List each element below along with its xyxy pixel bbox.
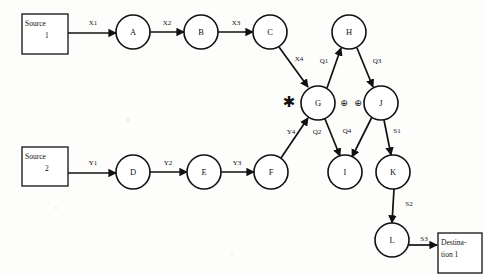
asterisk-operator: ✱: [283, 93, 296, 111]
edge-x2: X2: [150, 19, 184, 32]
diagram-canvas: X1X2X3X4Q1Q3Y1Y2Y3Y4Q2Q4S1S2S3 Source1So…: [0, 0, 485, 275]
edge-line-s1: [384, 120, 391, 155]
edge-line-x4: [279, 47, 308, 87]
node-i: I: [328, 155, 362, 189]
node-l: L: [375, 223, 409, 257]
edge-x1: X1: [68, 19, 116, 33]
edge-q2: Q2: [313, 119, 340, 156]
node-d: D: [116, 155, 150, 189]
source-1-box-line1: Source: [25, 19, 46, 28]
edge-label-y4: Y4: [287, 128, 296, 136]
node-label-k: K: [390, 167, 397, 177]
edge-label-y3: Y3: [233, 159, 242, 167]
edge-x3: X3: [218, 19, 253, 32]
node-k: K: [376, 155, 410, 189]
edge-line-q3: [357, 48, 373, 87]
edge-y3: Y3: [221, 159, 254, 172]
source-2-box: Source2: [22, 147, 68, 186]
destination-1-box-line1: Destina-: [441, 238, 467, 247]
node-label-b: B: [198, 27, 204, 37]
node-layer: ABCHGJDEFIKL: [116, 15, 410, 257]
node-f: F: [254, 155, 288, 189]
edge-line-q1: [327, 48, 341, 88]
node-label-f: F: [269, 167, 274, 177]
edge-label-s1: S1: [393, 127, 401, 135]
edge-s2: S2: [392, 189, 413, 223]
edge-label-q1: Q1: [320, 57, 329, 65]
edge-line-y4: [281, 118, 308, 158]
edge-y2: Y2: [150, 159, 187, 172]
circled-plus-operator-right: ⊕: [354, 98, 362, 108]
edge-s1: S1: [384, 120, 401, 155]
edge-line-q4: [352, 117, 372, 157]
edge-label-x2: X2: [163, 19, 172, 27]
node-label-i: I: [344, 167, 347, 177]
node-g: G: [301, 86, 335, 120]
node-c: C: [253, 15, 287, 49]
edge-label-q4: Q4: [343, 127, 352, 135]
node-label-d: D: [130, 167, 136, 177]
node-a: A: [116, 15, 150, 49]
edge-line-s2: [392, 189, 394, 223]
edge-label-s2: S2: [405, 200, 413, 208]
circled-plus-operator-left: ⊕: [340, 98, 348, 108]
node-e: E: [187, 155, 221, 189]
node-j: J: [364, 86, 398, 120]
edge-s3: S3: [409, 235, 437, 245]
node-label-e: E: [201, 167, 206, 177]
destination-1-box-line2: tion 1: [441, 250, 459, 259]
edge-layer: X1X2X3X4Q1Q3Y1Y2Y3Y4Q2Q4S1S2S3: [68, 19, 437, 245]
edge-label-x1: X1: [89, 19, 98, 27]
edge-q3: Q3: [357, 48, 382, 87]
edge-label-y2: Y2: [164, 159, 173, 167]
source-1-box-line2: 1: [45, 31, 49, 40]
node-b: B: [184, 15, 218, 49]
edge-x4: X4: [279, 47, 308, 87]
node-h: H: [332, 15, 366, 49]
destination-1-box: Destina-tion 1: [438, 233, 482, 273]
source-2-box-line1: Source: [25, 152, 46, 161]
source-1-box: Source1: [22, 14, 68, 54]
edge-q4: Q4: [343, 117, 372, 157]
node-label-a: A: [130, 27, 137, 37]
edge-y1: Y1: [68, 159, 116, 173]
node-label-g: G: [315, 98, 321, 108]
edge-label-y1: Y1: [89, 159, 98, 167]
box-layer: Source1Source2Destina-tion 1: [22, 14, 482, 273]
edge-label-s3: S3: [420, 235, 428, 243]
edge-q1: Q1: [320, 48, 341, 88]
edge-label-x4: X4: [295, 55, 304, 63]
node-label-l: L: [389, 235, 394, 245]
flow-diagram: X1X2X3X4Q1Q3Y1Y2Y3Y4Q2Q4S1S2S3 Source1So…: [0, 0, 485, 275]
edge-line-q2: [325, 119, 340, 156]
node-label-c: C: [267, 27, 273, 37]
edge-y4: Y4: [281, 118, 308, 158]
edge-label-q3: Q3: [373, 57, 382, 65]
edge-label-x3: X3: [232, 19, 241, 27]
source-2-box-line2: 2: [45, 164, 49, 173]
node-label-h: H: [346, 27, 352, 37]
edge-label-q2: Q2: [313, 128, 322, 136]
